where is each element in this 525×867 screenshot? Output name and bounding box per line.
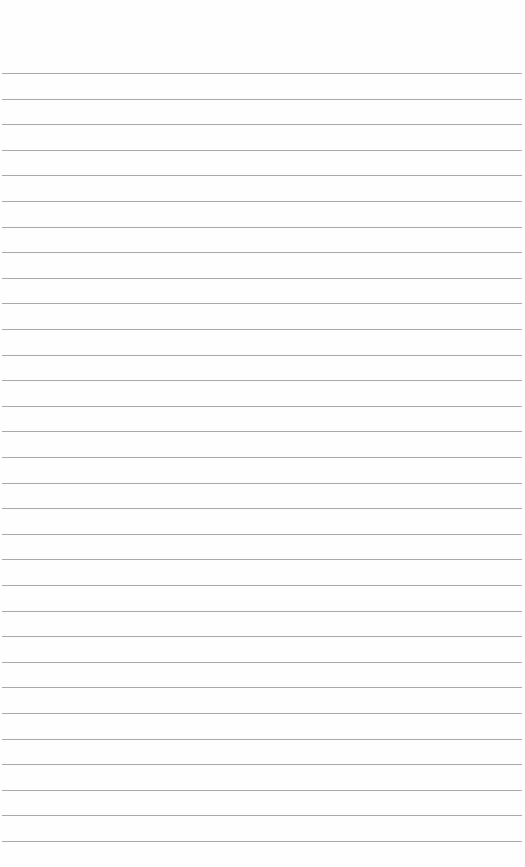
ruled-line — [2, 457, 522, 458]
ruled-line — [2, 508, 522, 509]
ruled-line — [2, 790, 522, 791]
ruled-line — [2, 406, 522, 407]
ruled-line — [2, 739, 522, 740]
ruled-line — [2, 815, 522, 816]
ruled-line — [2, 483, 522, 484]
ruled-line — [2, 73, 522, 74]
ruled-line — [2, 534, 522, 535]
ruled-line — [2, 201, 522, 202]
ruled-line — [2, 303, 522, 304]
lined-paper-page — [0, 0, 525, 867]
ruled-line — [2, 252, 522, 253]
ruled-line — [2, 175, 522, 176]
ruled-line — [2, 329, 522, 330]
ruled-line — [2, 380, 522, 381]
ruled-line — [2, 636, 522, 637]
ruled-line — [2, 611, 522, 612]
ruled-line — [2, 278, 522, 279]
ruled-line — [2, 99, 522, 100]
ruled-line — [2, 687, 522, 688]
ruled-line — [2, 713, 522, 714]
ruled-line — [2, 585, 522, 586]
ruled-line — [2, 431, 522, 432]
ruled-line — [2, 559, 522, 560]
ruled-line — [2, 662, 522, 663]
ruled-line — [2, 150, 522, 151]
ruled-line — [2, 764, 522, 765]
ruled-line — [2, 227, 522, 228]
ruled-line — [2, 124, 522, 125]
ruled-line — [2, 841, 522, 842]
ruled-line — [2, 355, 522, 356]
